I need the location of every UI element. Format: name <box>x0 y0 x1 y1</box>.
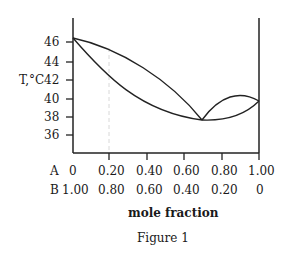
xtick-b-1: 0.80 <box>98 183 125 197</box>
xtick-a-2: 0.40 <box>136 164 163 178</box>
xtick-b-2: 0.60 <box>136 183 163 197</box>
ytick-46: 46 <box>44 35 59 49</box>
x-axis-label: mole fraction <box>128 206 218 220</box>
xtick-a-0: 0 <box>69 164 77 178</box>
xtick-a-3: 0.60 <box>173 164 200 178</box>
liquidus-left-curve <box>73 38 202 120</box>
row-label-b: B <box>50 183 59 197</box>
ytick-40: 40 <box>44 92 59 106</box>
xtick-b-3: 0.40 <box>173 183 200 197</box>
xtick-b-5: 0 <box>256 183 264 197</box>
xtick-a-1: 0.20 <box>98 164 125 178</box>
solidus-left-curve <box>73 38 202 120</box>
xtick-b-4: 0.20 <box>211 183 238 197</box>
y-ticks <box>66 42 73 135</box>
ytick-44: 44 <box>44 55 59 69</box>
x-ticks <box>109 153 259 160</box>
y-axis-label: T,°C <box>19 73 44 87</box>
figure-caption: Figure 1 <box>137 231 189 245</box>
row-label-a: A <box>50 164 59 178</box>
xtick-b-0: 1.00 <box>62 183 89 197</box>
xtick-a-4: 0.80 <box>211 164 238 178</box>
xtick-a-5: 1.00 <box>248 164 275 178</box>
ytick-42: 42 <box>44 73 59 87</box>
ytick-36: 36 <box>44 128 59 142</box>
ytick-38: 38 <box>44 110 59 124</box>
